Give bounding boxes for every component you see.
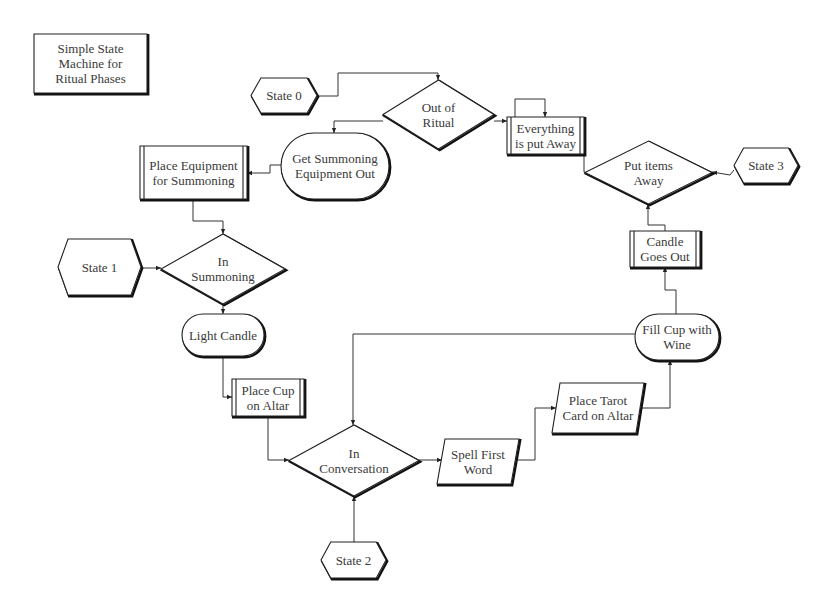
- node-state1: [58, 239, 142, 296]
- node-out-of-ritual: [383, 80, 495, 150]
- node-spell-first-word: [437, 439, 520, 485]
- state-machine-diagram: Simple State Machine for Ritual PhasesSt…: [0, 0, 827, 615]
- node-get-summoning: [281, 133, 390, 200]
- node-state3: [734, 148, 799, 184]
- node-state0: [251, 78, 318, 114]
- node-in-summoning: [161, 234, 286, 305]
- node-put-items-away: [585, 141, 713, 205]
- node-place-cup: [232, 379, 305, 417]
- node-state2: [321, 542, 387, 579]
- node-place-tarot: [552, 383, 645, 434]
- node-candle-goes-out: [630, 231, 701, 268]
- node-place-equipment: [140, 146, 248, 200]
- node-in-conversation: [289, 425, 420, 497]
- node-everything-put-away: [507, 117, 585, 155]
- node-fill-cup: [635, 314, 720, 361]
- node-title: [34, 34, 148, 94]
- node-light-candle: [182, 314, 265, 357]
- shape-layer: [0, 0, 827, 615]
